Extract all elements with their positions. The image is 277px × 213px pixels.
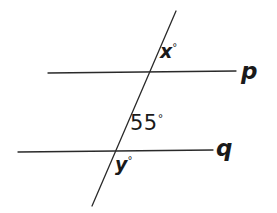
line-label-q: q: [216, 137, 232, 160]
angle-label-y: y°: [115, 155, 132, 174]
geometry-canvas: [0, 0, 277, 213]
degree-symbol-icon: °: [127, 155, 132, 166]
angle-label-55: 55°: [130, 113, 164, 134]
angle-label-x: x°: [160, 42, 177, 61]
degree-symbol-icon: °: [172, 42, 177, 53]
angle-label-x-value: x: [160, 40, 172, 62]
line-label-p: p: [241, 60, 257, 83]
geometry-figure: x° 55° y° p q: [0, 0, 277, 213]
line-p: [48, 71, 236, 73]
angle-label-55-value: 55: [130, 111, 158, 135]
degree-symbol-icon: °: [158, 112, 164, 125]
angle-label-y-value: y: [115, 153, 127, 175]
